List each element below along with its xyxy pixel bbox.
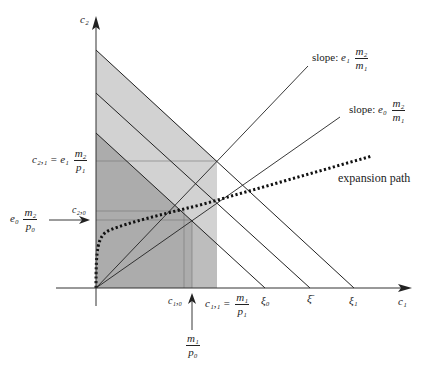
c20-label: c₂,₀ (72, 205, 86, 215)
budget-label-xi0: ξ₀ (261, 295, 270, 306)
e0-num: m₂ (23, 207, 37, 220)
slope-e0-coef: e₀ (378, 103, 387, 115)
c11-annotation: c₁,₁ = m₁ p₁ (205, 292, 249, 317)
slope-e0-label: slope: e₀ m₂ m₁ (349, 98, 405, 123)
budget-label-xi1: ξ₁ (349, 295, 358, 306)
c11-fraction: m₁ p₁ (235, 292, 249, 317)
slope-e1-den: m₁ (356, 59, 368, 71)
c21-num: m₂ (74, 148, 88, 161)
m1p0-annotation: m₁ p₀ (184, 333, 200, 358)
slope-e1-coef: e₁ (341, 51, 350, 63)
e0-fraction: m₂ p₀ (23, 207, 37, 232)
expansion-path-label: expansion path (338, 172, 410, 184)
slope-e0-den: m₁ (393, 111, 405, 123)
slope-e0-num: m₂ (392, 98, 406, 111)
m1p0-num: m₁ (186, 333, 200, 346)
slope-e1-num: m₂ (355, 46, 369, 59)
slope-e1-prefix: slope: (312, 51, 338, 63)
y-axis-label: c₂ (80, 14, 89, 25)
slope-e0-fraction: m₂ m₁ (392, 98, 406, 123)
slope-e0-prefix: slope: (349, 103, 375, 115)
c11-lhs: c₁,₁ = (205, 297, 230, 309)
e0-den: p₀ (26, 220, 35, 232)
c11-den: p₁ (237, 305, 246, 317)
m1p0-den: p₀ (188, 346, 197, 358)
e0-coef: e₀ (10, 212, 19, 224)
c21-fraction: m₂ p₁ (74, 148, 88, 173)
c10-label: c₁,₀ (168, 296, 182, 306)
c21-annotation: c₂,₁ = e₁ m₂ p₁ (32, 148, 87, 173)
c21-den: p₁ (76, 161, 85, 173)
c11-num: m₁ (235, 292, 249, 305)
x-axis-label: c₁ (398, 296, 407, 307)
e0-m2-p0-annotation: e₀ m₂ p₀ (10, 207, 37, 232)
c21-lhs: c₂,₁ = e₁ (32, 153, 69, 165)
m1p0-fraction: m₁ p₀ (186, 333, 200, 358)
slope-e1-label: slope: e₁ m₂ m₁ (312, 46, 368, 71)
slope-e1-fraction: m₂ m₁ (355, 46, 369, 71)
budget-label-xibar: ξ̄ (307, 293, 312, 304)
